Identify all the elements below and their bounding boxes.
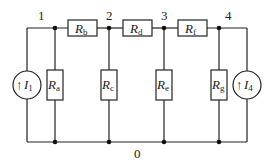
node-label-0: 0 <box>134 146 141 161</box>
node-label-3: 3 <box>161 8 168 23</box>
svg-text:↑: ↑ <box>236 77 243 92</box>
resistor-rf: Rf <box>178 20 207 37</box>
resistor-rc: Rc <box>101 70 117 100</box>
resistor-rd: Rd <box>123 20 152 37</box>
current-source-i1: ↑ I1 <box>13 71 41 99</box>
resistor-rg: Rg <box>211 70 227 100</box>
node-label-1: 1 <box>38 8 45 23</box>
node-label-2: 2 <box>106 8 113 23</box>
current-source-i4: ↑ I4 <box>233 71 261 99</box>
circuit-diagram: Rb Rd Rf Ra Rc Re Rg ↑ I1 ↑ I4 <box>0 0 274 164</box>
resistor-ra: Ra <box>47 70 63 100</box>
resistor-rb: Rb <box>68 20 97 37</box>
junction-dots <box>53 26 222 145</box>
node-label-4: 4 <box>225 8 232 23</box>
resistor-re: Re <box>156 70 172 100</box>
svg-text:↑: ↑ <box>16 77 23 92</box>
